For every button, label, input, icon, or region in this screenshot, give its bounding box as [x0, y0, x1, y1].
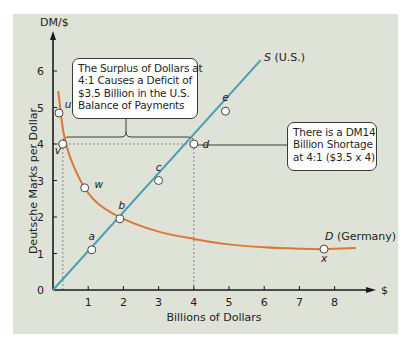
point-u-marker — [55, 109, 63, 117]
supply-label: S (U.S.) — [264, 51, 305, 64]
x-tick-label: 5 — [226, 296, 233, 309]
point-c-label: c — [156, 161, 162, 173]
shortage-callout-line-3: at 4:1 ($3.5 x 4) — [293, 151, 371, 163]
surplus-bracket — [63, 119, 287, 145]
point-c-marker — [155, 177, 163, 185]
y-axis-title: Deutsche Marks per Dollar — [27, 107, 40, 254]
x-tick-label: 7 — [296, 296, 303, 309]
x-tick-label: 6 — [261, 296, 268, 309]
surplus-callout-line-3: $3.5 Billion in the U.S. — [78, 87, 192, 99]
x-tick-label: 4 — [190, 296, 197, 309]
x-axis-unit: $ — [381, 284, 388, 297]
y-tick-label: 0 — [37, 284, 44, 297]
point-x-label: x — [320, 252, 328, 264]
point-w-marker — [81, 184, 89, 192]
shortage-callout: There is a DM14 Billion Shortage at 4:1 … — [287, 122, 377, 171]
x-tick-label: 2 — [120, 296, 127, 309]
shortage-callout-line-2: Billion Shortage — [293, 138, 371, 150]
shortage-callout-line-1: There is a DM14 — [293, 126, 371, 138]
demand-label: D (Germany) — [325, 230, 396, 243]
x-axis-title: Billions of Dollars — [166, 311, 261, 324]
x-tick-label: 8 — [331, 296, 338, 309]
surplus-callout-line-2: 4:1 Causes a Deficit of — [78, 74, 192, 86]
y-axis-unit: DM/$ — [40, 16, 69, 29]
surplus-callout-line-1: The Surplus of Dollars at — [78, 62, 192, 74]
x-axis-arrow-icon — [366, 287, 376, 293]
surplus-callout-line-4: Balance of Payments — [78, 99, 192, 111]
point-w-label: w — [94, 178, 103, 190]
bracket-path — [63, 132, 194, 142]
point-a-marker — [88, 246, 96, 254]
exchange-market-chart: abcdeuvwx 123456780123456S (U.S.)D (Germ… — [0, 0, 413, 351]
x-tick-label: 1 — [85, 296, 92, 309]
surplus-callout: The Surplus of Dollars at 4:1 Causes a D… — [72, 58, 198, 119]
point-d-label: d — [202, 138, 209, 150]
point-v-label: v — [55, 144, 62, 156]
point-e-marker — [221, 107, 229, 115]
y-tick-label: 6 — [37, 65, 44, 78]
point-b-label: b — [119, 199, 126, 211]
point-d-marker — [190, 140, 198, 148]
point-e-label: e — [222, 91, 228, 103]
y-axis-arrow-icon — [50, 31, 56, 40]
x-tick-label: 3 — [155, 296, 162, 309]
point-u-label: u — [65, 98, 72, 110]
point-b-marker — [116, 215, 124, 223]
point-a-label: a — [89, 230, 95, 242]
